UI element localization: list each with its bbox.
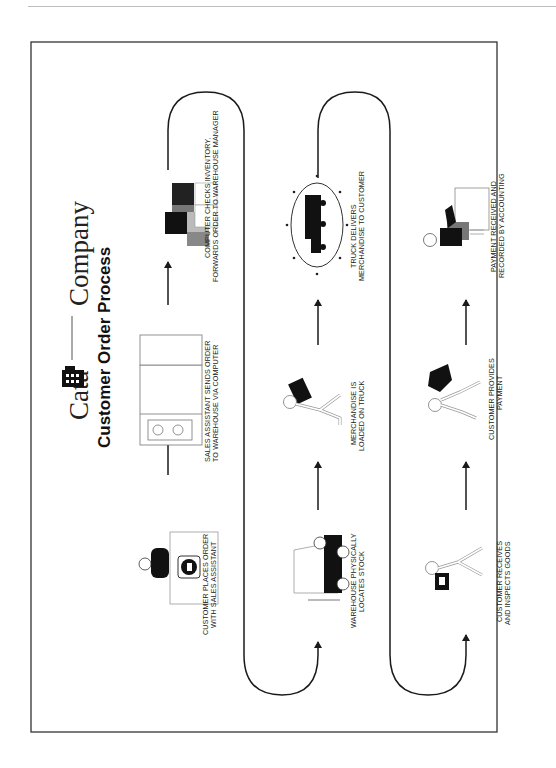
customer-order-process-diagram: Cata Company Customer Order Process — [0, 0, 556, 768]
person-carrying-box-icon — [284, 378, 341, 425]
person-inspecting-box-icon — [426, 548, 483, 590]
step-5-caption-line2: LOADED ON TRUCK — [357, 380, 366, 451]
page-title: Customer Order Process — [95, 247, 114, 448]
brand-right-text: Company — [64, 201, 94, 306]
step-3: COMPUTER CHECKS INVENTORY, FORWARDS ORDE… — [165, 110, 220, 282]
forklift-icon — [294, 535, 349, 600]
delivery-truck-icon — [286, 175, 349, 276]
step-4: WAREHOUSE PHYSICALLY LOCATES STOCK — [294, 533, 366, 628]
step-7: CUSTOMER RECEIVES AND INSPECTS GOODS — [426, 541, 513, 625]
step-4-caption-line2: LOCATES STOCK — [357, 551, 366, 612]
step-9: PAYMENT RECEIVED AND RECORDED BY ACCOUNT… — [424, 173, 507, 278]
step-2-caption-line2: TO WAREHOUSE VIA COMPUTER — [211, 344, 220, 462]
step-6-caption-line2: MERCHANDISE TO CUSTOMER — [357, 171, 366, 281]
accountant-desk-icon — [424, 188, 490, 247]
step-3-caption-line2: FORWARDS ORDER TO WAREHOUSE MANAGER — [211, 110, 220, 282]
step-6: TRUCK DELIVERS MERCHANDISE TO CUSTOMER — [286, 171, 366, 281]
computer-terminal-icon — [140, 335, 202, 445]
step-1: CUSTOMER PLACES ORDER WITH SALES ASSISTA… — [139, 532, 218, 635]
step-5: MERCHANDISE IS LOADED ON TRUCK — [284, 378, 367, 451]
step-7-caption-line2: AND INSPECTS GOODS — [503, 541, 512, 625]
step-8-caption-line2: PAYMENT — [495, 375, 504, 410]
header: Cata Company Customer Order Process — [62, 201, 114, 448]
step-9-caption-line2: RECORDED BY ACCOUNTING — [497, 173, 506, 278]
step-2: SALES ASSISTANT SENDS ORDER TO WAREHOUSE… — [140, 335, 220, 462]
person-handing-payment-icon — [428, 364, 480, 418]
step-1-caption-line2: WITH SALES ASSISTANT — [209, 541, 218, 628]
telephone-book-icon — [62, 366, 84, 387]
step-8: CUSTOMER PROVIDES PAYMENT — [428, 358, 504, 440]
loop-row2-to-row3 — [318, 92, 466, 695]
